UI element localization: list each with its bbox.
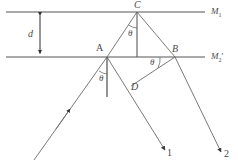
incident-ray	[34, 57, 107, 160]
ray-a-to-c	[107, 12, 137, 57]
point-label-a: A	[96, 43, 103, 53]
angle-arc-at-b	[158, 57, 160, 68]
mirror-label-bottom: M2′	[211, 52, 223, 63]
angle-label-at-c: θ	[128, 29, 132, 38]
angle-label-at-a: θ	[99, 74, 103, 83]
ray-one	[107, 57, 165, 150]
optics-ray-diagram: M1 M2′ d A B C D θ θ θ 1 2	[0, 0, 238, 166]
mirror-label-bottom-prime: ′	[222, 51, 224, 61]
point-label-c: C	[134, 0, 141, 10]
ray-label-one: 1	[167, 148, 172, 158]
diagram-canvas	[0, 0, 238, 166]
ray-c-to-b	[137, 12, 175, 57]
separation-label: d	[28, 29, 33, 39]
point-label-d: D	[131, 82, 138, 92]
angle-label-at-b: θ	[150, 58, 154, 67]
point-label-b: B	[172, 44, 178, 54]
mirror-label-top-text: M	[211, 6, 219, 16]
ray-label-two: 2	[224, 149, 229, 159]
mirror-label-top: M1	[211, 7, 222, 18]
mirror-label-bottom-text: M	[211, 51, 219, 61]
ray-two	[175, 57, 221, 152]
incident-ray-arrowhead	[56, 109, 70, 129]
mirror-label-top-subscript: 1	[219, 12, 222, 18]
